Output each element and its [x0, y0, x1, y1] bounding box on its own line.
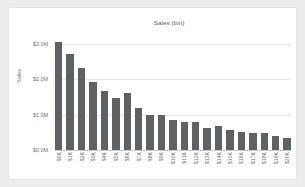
bar[interactable]: [226, 130, 233, 150]
y-axis-tick: $3.0M: [33, 41, 48, 47]
bar-series: [55, 35, 291, 150]
bar[interactable]: [101, 91, 108, 150]
bar[interactable]: [55, 42, 62, 150]
x-axis-tick-labels: $0K$1K$2K$3K$4K$5K$6K$7K$8K$9K$10K$11K$1…: [55, 152, 291, 186]
x-axis-tick-label: $15K: [227, 152, 233, 164]
bar[interactable]: [272, 136, 279, 150]
bar[interactable]: [169, 120, 176, 150]
x-axis-tick-label: $11K: [181, 152, 187, 164]
x-axis-tick-label: $18K: [261, 152, 267, 164]
bar[interactable]: [78, 68, 85, 150]
bar[interactable]: [158, 115, 165, 150]
bar[interactable]: [112, 98, 119, 150]
x-axis-tick-label: $13K: [204, 152, 210, 164]
x-axis-tick: $14K: [215, 152, 222, 186]
y-axis-tick: $0.0M: [33, 147, 48, 153]
x-axis-tick: $17K: [249, 152, 256, 186]
x-axis-tick: $0K: [55, 152, 62, 186]
bar[interactable]: [283, 138, 290, 150]
bar[interactable]: [215, 126, 222, 150]
bar[interactable]: [146, 115, 153, 150]
x-axis-tick-label: $8K: [147, 152, 153, 161]
x-axis-tick-label: $7K: [136, 152, 142, 161]
x-axis-tick-label: $1K: [67, 152, 73, 161]
x-axis-tick-label: $16K: [238, 152, 244, 164]
x-axis-tick: $11K: [181, 152, 188, 186]
x-axis-tick: $19K: [272, 152, 279, 186]
x-axis-tick: $5K: [112, 152, 119, 186]
x-axis-tick: $15K: [226, 152, 233, 186]
x-axis-tick: $6K: [124, 152, 131, 186]
x-axis-line: [55, 150, 291, 151]
x-axis-tick-label: $10K: [170, 152, 176, 164]
y-axis-tick: $2.0M: [33, 76, 48, 82]
chart-card: Sales (bin) Sales $3.0M$2.0M$1.0M$0.0M $…: [9, 8, 296, 179]
x-axis-tick: $7K: [135, 152, 142, 186]
x-axis-tick-label: $0K: [56, 152, 62, 161]
x-axis-tick-label: $3K: [90, 152, 96, 161]
x-axis-tick-label: $9K: [158, 152, 164, 161]
bar[interactable]: [66, 54, 73, 150]
x-axis-tick-label: $2K: [79, 152, 85, 161]
bar[interactable]: [135, 108, 142, 150]
x-axis-tick: $2K: [78, 152, 85, 186]
bar[interactable]: [249, 133, 256, 150]
x-axis-tick: $12K: [192, 152, 199, 186]
x-axis-tick-label: $17K: [250, 152, 256, 164]
chart-title: Sales (bin): [49, 19, 289, 26]
bar[interactable]: [89, 82, 96, 150]
x-axis-tick-label: $4K: [101, 152, 107, 161]
y-axis-tick: $1.0M: [33, 112, 48, 118]
x-axis-tick: $1K: [66, 152, 73, 186]
x-axis-tick: $16K: [238, 152, 245, 186]
x-axis-tick-label: $5K: [113, 152, 119, 161]
x-axis-tick-label: $19K: [273, 152, 279, 164]
bar[interactable]: [124, 93, 131, 150]
bar[interactable]: [203, 128, 210, 150]
x-axis-tick: $18K: [261, 152, 268, 186]
x-axis-tick: $20K: [283, 152, 290, 186]
bar[interactable]: [192, 122, 199, 150]
x-axis-tick-label: $12K: [193, 152, 199, 164]
bar[interactable]: [181, 122, 188, 150]
bar[interactable]: [261, 133, 268, 150]
bar[interactable]: [238, 132, 245, 150]
x-axis-tick-label: $6K: [124, 152, 130, 161]
x-axis-tick: $3K: [89, 152, 96, 186]
x-axis-tick: $9K: [158, 152, 165, 186]
x-axis-tick: $10K: [169, 152, 176, 186]
x-axis-tick: $8K: [146, 152, 153, 186]
x-axis-tick: $13K: [203, 152, 210, 186]
x-axis-tick: $4K: [101, 152, 108, 186]
x-axis-tick-label: $14K: [216, 152, 222, 164]
x-axis-tick-label: $20K: [284, 152, 290, 164]
y-axis-tick-labels: $3.0M$2.0M$1.0M$0.0M: [9, 35, 51, 150]
